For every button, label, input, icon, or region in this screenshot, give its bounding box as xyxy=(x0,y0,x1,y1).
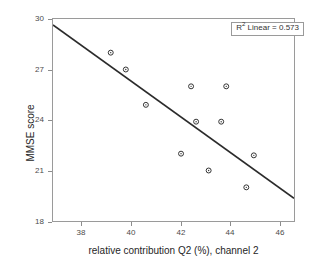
x-tick-label-42: 42 xyxy=(177,229,186,237)
scatter-plot-figure: MMSE score 30 27 24 21 18 38 40 42 44 46… xyxy=(0,0,312,266)
x-tick-label-40: 40 xyxy=(127,229,136,237)
x-axis-title: relative contribution Q2 (%), channel 2 xyxy=(52,245,295,256)
x-tick-mark-44 xyxy=(230,222,231,226)
r-squared-text: Linear = 0.573 xyxy=(245,23,299,32)
data-point xyxy=(206,168,211,173)
y-tick-label-24: 24 xyxy=(28,116,44,124)
x-tick-mark-38 xyxy=(81,222,82,226)
y-tick-mark-18 xyxy=(48,222,52,223)
r-squared-legend-box: R2 Linear = 0.573 xyxy=(231,22,304,36)
y-axis-title: MMSE score xyxy=(25,104,36,161)
data-point xyxy=(179,151,184,156)
plot-area xyxy=(52,18,295,222)
data-point xyxy=(219,119,224,124)
y-tick-label-18: 18 xyxy=(28,218,44,226)
data-point xyxy=(123,67,128,72)
data-point xyxy=(143,102,148,107)
y-tick-label-21: 21 xyxy=(28,167,44,175)
x-tick-label-44: 44 xyxy=(226,229,235,237)
data-point xyxy=(251,153,256,158)
data-point xyxy=(108,50,113,55)
y-tick-label-30: 30 xyxy=(28,15,44,23)
plot-canvas xyxy=(53,19,294,221)
y-tick-label-27: 27 xyxy=(28,66,44,74)
data-point xyxy=(189,84,194,89)
data-point xyxy=(244,185,249,190)
x-tick-label-46: 46 xyxy=(276,229,285,237)
x-tick-mark-40 xyxy=(131,222,132,226)
data-points xyxy=(108,50,256,190)
x-tick-mark-42 xyxy=(181,222,182,226)
data-point xyxy=(194,119,199,124)
data-point xyxy=(224,84,229,89)
regression-line xyxy=(53,25,294,198)
x-tick-label-38: 38 xyxy=(77,229,86,237)
x-tick-mark-46 xyxy=(280,222,281,226)
regression-line-segment xyxy=(53,25,294,198)
